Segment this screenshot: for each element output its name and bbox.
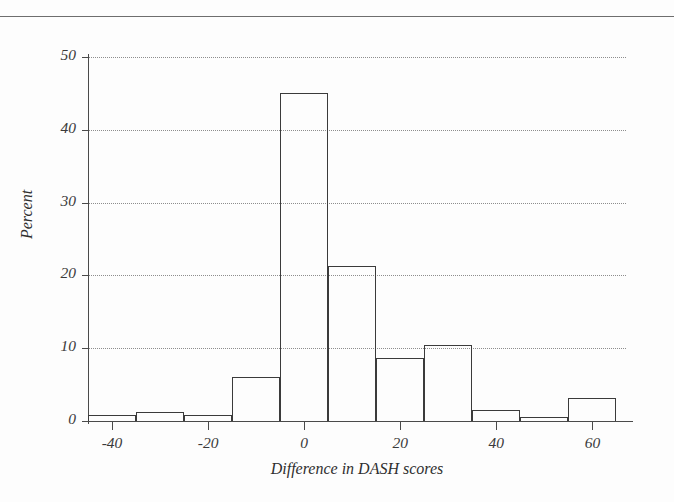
y-tick-10 bbox=[82, 348, 89, 349]
x-axis-title: Difference in DASH scores bbox=[88, 460, 626, 478]
y-tick-40 bbox=[82, 130, 89, 131]
gridline-50 bbox=[88, 57, 626, 58]
y-tick-20 bbox=[82, 275, 89, 276]
y-tick-label: 30 bbox=[61, 192, 77, 210]
histogram-bar bbox=[280, 93, 328, 421]
y-tick-label: 10 bbox=[61, 337, 77, 355]
y-tick-50 bbox=[82, 57, 89, 58]
plot-area bbox=[88, 57, 626, 421]
x-tick-label-wrap: 20 bbox=[370, 434, 430, 454]
x-tick-label: 0 bbox=[274, 434, 334, 452]
x-tick-label: -40 bbox=[82, 434, 142, 452]
x-tick-label: 60 bbox=[562, 434, 622, 452]
gridline-30 bbox=[88, 203, 626, 204]
x-tick--20 bbox=[208, 422, 209, 430]
histogram-bar bbox=[232, 377, 280, 421]
y-tick-label: 0 bbox=[68, 410, 76, 428]
y-tick-label: 20 bbox=[61, 264, 77, 282]
x-tick-label-wrap: -40 bbox=[82, 434, 142, 454]
x-tick-0 bbox=[304, 422, 305, 430]
y-tick-0 bbox=[82, 421, 89, 422]
histogram-bar bbox=[424, 345, 472, 421]
x-tick-40 bbox=[496, 422, 497, 430]
gridline-40 bbox=[88, 130, 626, 131]
x-tick-label-wrap: 60 bbox=[562, 434, 622, 454]
y-tick-30 bbox=[82, 203, 89, 204]
histogram-bar bbox=[520, 417, 568, 421]
y-tick-label: 40 bbox=[61, 119, 77, 137]
histogram-bar bbox=[184, 415, 232, 421]
histogram-bar bbox=[568, 398, 616, 421]
x-tick-label-wrap: -20 bbox=[178, 434, 238, 454]
x-tick-label-wrap: 0 bbox=[274, 434, 334, 454]
x-tick-20 bbox=[400, 422, 401, 430]
x-axis-line bbox=[82, 421, 633, 422]
x-tick-label: -20 bbox=[178, 434, 238, 452]
top-horizontal-rule bbox=[0, 16, 674, 17]
x-tick--40 bbox=[112, 422, 113, 430]
x-tick-label-wrap: 40 bbox=[466, 434, 526, 454]
histogram-bar bbox=[328, 266, 376, 421]
histogram-bar bbox=[472, 410, 520, 421]
y-axis-title: Percent bbox=[18, 190, 36, 239]
figure-canvas: 01020304050 -40-200204060 Percent Differ… bbox=[0, 0, 674, 502]
histogram-bar bbox=[88, 415, 136, 421]
histogram-bar bbox=[136, 412, 184, 421]
x-tick-60 bbox=[592, 422, 593, 430]
x-tick-label: 20 bbox=[370, 434, 430, 452]
y-tick-label: 50 bbox=[61, 46, 77, 64]
histogram-bar bbox=[376, 358, 424, 421]
x-tick-label: 40 bbox=[466, 434, 526, 452]
